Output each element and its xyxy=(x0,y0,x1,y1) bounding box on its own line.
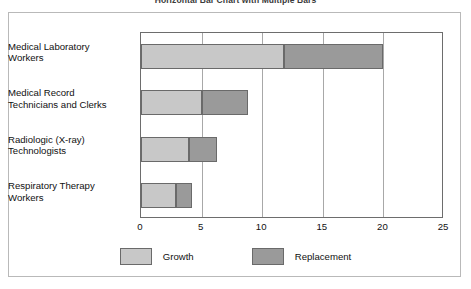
x-tick-label-0: 0 xyxy=(137,221,142,232)
x-tick-label-5: 5 xyxy=(198,221,203,232)
chart-legend: GrowthReplacement xyxy=(0,248,471,265)
plot-area xyxy=(140,32,443,218)
x-tick-label-25: 25 xyxy=(438,221,449,232)
gridline-x-20 xyxy=(383,33,384,217)
bar-segment-replacement[interactable] xyxy=(284,44,383,69)
chart-title: Horizontal Bar Chart with Multiple Bars xyxy=(0,0,471,5)
y-axis-label: Medical LaboratoryWorkers xyxy=(8,41,136,64)
y-axis-label: Radiologic (X-ray)Technologists xyxy=(8,134,136,157)
y-axis-label: Respiratory TherapyWorkers xyxy=(8,180,136,203)
legend-item[interactable]: Replacement xyxy=(252,248,352,265)
legend-swatch xyxy=(252,248,284,265)
x-tick-label-20: 20 xyxy=(377,221,388,232)
bar-segment-replacement[interactable] xyxy=(202,90,248,115)
bar-segment-growth[interactable] xyxy=(141,44,284,69)
y-axis-labels: Medical LaboratoryWorkersMedical RecordT… xyxy=(4,32,136,218)
x-tick-label-10: 10 xyxy=(256,221,267,232)
bar-segment-replacement[interactable] xyxy=(176,183,192,208)
legend-swatch xyxy=(120,248,152,265)
bar-segment-growth[interactable] xyxy=(141,90,202,115)
legend-label: Growth xyxy=(163,251,194,262)
y-axis-label: Medical RecordTechnicians and Clerks xyxy=(8,87,136,110)
bar-segment-growth[interactable] xyxy=(141,137,189,162)
bar-segment-replacement[interactable] xyxy=(189,137,217,162)
x-tick-label-15: 15 xyxy=(316,221,327,232)
legend-item[interactable]: Growth xyxy=(120,248,194,265)
x-axis-tick-labels: 0510152025 xyxy=(140,221,443,237)
legend-label: Replacement xyxy=(295,251,352,262)
bar-segment-growth[interactable] xyxy=(141,183,176,208)
